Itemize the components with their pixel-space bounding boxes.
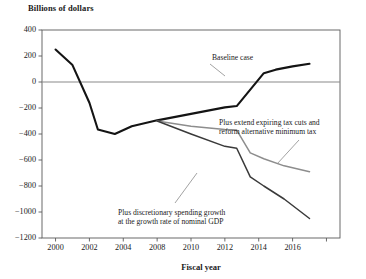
x-axis-title: Fiscal year	[0, 262, 366, 272]
y-tick-label: 200	[0, 52, 36, 60]
x-tick-label: 2016	[273, 244, 313, 252]
annotation-leader-baseline-case	[210, 64, 225, 76]
y-tick-label: −200	[0, 104, 36, 112]
annotation-line: Plus extend expiring tax cuts and	[219, 118, 320, 127]
y-tick-label: −600	[0, 156, 36, 164]
y-tick-label: −800	[0, 182, 36, 190]
y-tick-label: −400	[0, 130, 36, 138]
annotation-leader-extend-tax-cuts	[277, 140, 299, 164]
y-tick-label: −1000	[0, 208, 36, 216]
annotation-line: reform alternative minimum tax	[219, 127, 320, 136]
x-axis-title-text: Fiscal year	[181, 262, 220, 272]
annotation-extend-tax-cuts: Plus extend expiring tax cuts andreform …	[219, 118, 320, 136]
y-tick-label: 400	[0, 26, 36, 34]
y-tick-label: 0	[0, 78, 36, 86]
annotation-line: Baseline case	[212, 53, 253, 62]
chart-plot-area	[0, 0, 366, 279]
annotation-line: Plus discretionary spending growth	[118, 208, 225, 217]
annotation-leader-discretionary-spending	[175, 173, 197, 203]
annotation-line: at the growth rate of nominal GDP	[118, 217, 225, 226]
y-tick-label: −1200	[0, 234, 36, 242]
chart-figure: Billions of dollars Fiscal year 4002000−…	[0, 0, 366, 279]
annotation-baseline-case: Baseline case	[212, 53, 253, 62]
annotation-discretionary-spending: Plus discretionary spending growthat the…	[118, 208, 225, 226]
